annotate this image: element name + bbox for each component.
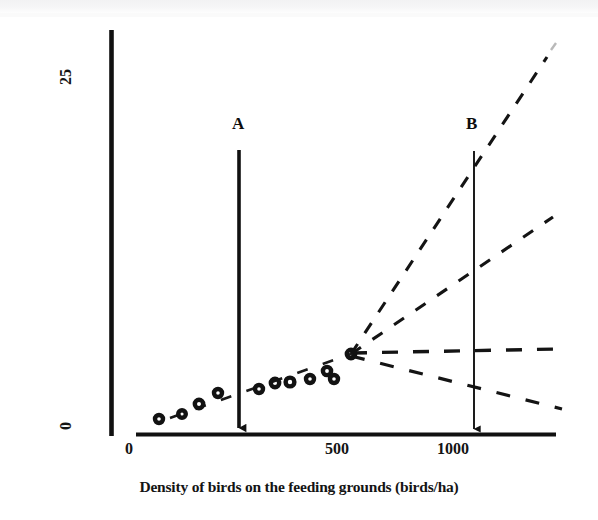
x-tick-label-1000: 1000 (437, 440, 469, 458)
data-point (286, 378, 295, 387)
plot-canvas (0, 0, 598, 520)
x-axis-title: Density of birds on the feeding grounds … (0, 478, 598, 496)
annotation-label-b: B (466, 114, 477, 134)
data-point (155, 415, 163, 423)
data-point (195, 400, 203, 408)
figure-scatter-bird-starvation: A B 0 500 1000 0 25 Percentage of birds … (0, 0, 598, 520)
series-line-extrapolation-declining (351, 356, 562, 409)
data-point (323, 367, 331, 375)
series-line-extrapolation-level (351, 349, 558, 353)
series-line-extrapolation-moderate (351, 217, 553, 354)
series-scatter-observed (155, 350, 355, 423)
data-point (271, 379, 279, 387)
y-tick-label-25: 25 (57, 69, 75, 85)
x-tick-label-0: 0 (125, 440, 133, 458)
data-point (306, 375, 314, 383)
annotation-label-a: A (232, 114, 244, 134)
series-line-extrapolation-steep (351, 57, 547, 354)
data-point (255, 385, 263, 393)
x-tick-label-500: 500 (325, 440, 349, 458)
series-line-extrapolation-steep-faint-tip (551, 43, 556, 50)
data-point (178, 410, 186, 418)
y-tick-label-0: 0 (57, 422, 75, 430)
data-point (214, 389, 222, 397)
data-point (330, 375, 338, 383)
